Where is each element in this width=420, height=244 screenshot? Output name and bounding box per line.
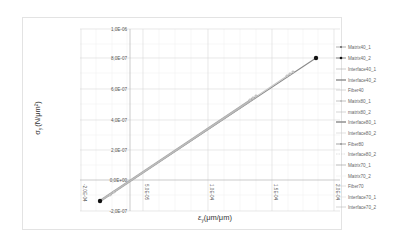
legend-item[interactable]: matrix80_2 xyxy=(336,110,371,115)
legend-item[interactable]: Interface80_2 xyxy=(336,131,377,136)
y-tick-label: 8,0E-07 xyxy=(111,56,128,61)
svg-text:Interface40_1: Interface40_1 xyxy=(348,67,377,72)
y-tick-label: 2,0E-07 xyxy=(111,148,128,153)
legend-item[interactable]: Matrix70_2 xyxy=(336,174,371,179)
legend-item[interactable]: Fiber40 xyxy=(336,88,364,93)
x-axis-title: εy(μm/μm) xyxy=(198,213,232,223)
x-axis-units: (μm/μm) xyxy=(204,213,233,222)
y-tick-label: 6,0E-07 xyxy=(111,87,128,92)
legend-item[interactable]: Interface80_2 xyxy=(336,152,377,157)
end-point-marker xyxy=(314,56,318,60)
legend-item[interactable]: Interface70_2 xyxy=(336,205,377,210)
svg-text:σy(N/μm²): σy(N/μm²) xyxy=(33,101,43,135)
legend-item[interactable]: Matrix80_1 xyxy=(336,99,371,104)
svg-text:Fiber70: Fiber70 xyxy=(348,184,364,189)
y-tick-label: 0,0E+00 xyxy=(110,178,128,183)
svg-text:Interface80_2: Interface80_2 xyxy=(348,152,377,157)
legend-item[interactable]: Fiber80 xyxy=(336,142,364,147)
legend-item[interactable]: Interface70_1 xyxy=(336,195,377,200)
svg-text:Matrix70_1: Matrix70_1 xyxy=(348,163,371,168)
legend-item[interactable]: Matrix40_2 xyxy=(336,56,371,61)
legend-item[interactable]: Interface80_1 xyxy=(336,120,377,125)
legend: Matrix40_1 Matrix40_2 Interface40_1 Inte… xyxy=(336,45,377,210)
svg-text:Interface80_1: Interface80_1 xyxy=(348,120,377,125)
x-tick-label: 5,0E-05 xyxy=(144,184,149,201)
legend-item[interactable]: Matrix70_1 xyxy=(336,163,371,168)
svg-text:Matrix40_2: Matrix40_2 xyxy=(348,56,371,61)
svg-text:Fiber40: Fiber40 xyxy=(348,88,364,93)
legend-item[interactable]: Interface40_2 xyxy=(336,78,377,83)
y-tick-label: 4,0E-07 xyxy=(111,118,128,123)
svg-text:Matrix80_1: Matrix80_1 xyxy=(348,99,371,104)
chart: 1,0E-06 8,0E-07 6,0E-07 4,0E-07 2,0E-07 … xyxy=(0,0,420,244)
svg-text:εy(μm/μm): εy(μm/μm) xyxy=(198,213,232,223)
start-point-marker xyxy=(98,199,102,203)
svg-text:Interface70_2: Interface70_2 xyxy=(348,205,377,210)
svg-text:Fiber80: Fiber80 xyxy=(348,142,364,147)
y-tick-label: 1,0E-06 xyxy=(111,27,128,32)
legend-item[interactable]: Interface40_1 xyxy=(336,67,377,72)
x-tick-label: 1,5E-04 xyxy=(273,184,278,201)
x-tick-label: 1,0E-04 xyxy=(209,184,214,201)
svg-text:Interface80_2: Interface80_2 xyxy=(348,131,377,136)
svg-text:Interface70_1: Interface70_1 xyxy=(348,195,377,200)
svg-text:matrix80_2: matrix80_2 xyxy=(348,110,371,115)
svg-text:Matrix70_2: Matrix70_2 xyxy=(348,174,371,179)
y-tick-label: -2,0E-07 xyxy=(109,209,127,214)
y-axis-units: (N/μm²) xyxy=(33,101,42,127)
legend-item[interactable]: Matrix40_1 xyxy=(336,45,371,50)
svg-text:Interface40_2: Interface40_2 xyxy=(348,78,377,83)
x-tick-label: -2,0E-04 xyxy=(82,184,87,202)
y-axis-title: σy(N/μm²) xyxy=(33,101,43,135)
svg-text:Matrix40_1: Matrix40_1 xyxy=(348,45,371,50)
x-tick-label: 2,0E-04 xyxy=(335,184,340,201)
